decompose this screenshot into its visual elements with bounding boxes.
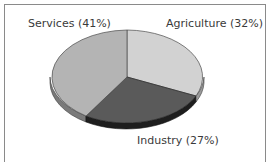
label-industry: Industry (27%) — [137, 134, 219, 147]
label-agriculture: Agriculture (32%) — [166, 17, 263, 30]
label-services: Services (41%) — [28, 17, 111, 30]
pie-slices — [52, 30, 203, 123]
